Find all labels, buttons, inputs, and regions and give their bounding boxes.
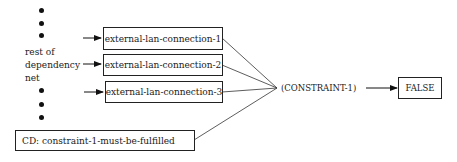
node-external-lan-connection-1: external-lan-connection-1 bbox=[103, 27, 223, 50]
line-conn-2-to-constraint bbox=[222, 65, 277, 88]
ellipsis-dot bbox=[39, 88, 44, 93]
source-label-line-2: dependency bbox=[25, 59, 80, 72]
node-external-lan-connection-2: external-lan-connection-2 bbox=[103, 54, 223, 76]
constraint-label: (CONSTRAINT-1) bbox=[281, 82, 356, 95]
line-conn-1-to-constraint bbox=[222, 38, 277, 88]
ellipsis-dot bbox=[39, 33, 44, 38]
cd-constraint-box: CD: constraint-1-must-be-fulfilled bbox=[15, 130, 195, 151]
ellipsis-dot bbox=[39, 102, 44, 107]
ellipsis-dot bbox=[39, 8, 44, 13]
line-conn-3-to-constraint bbox=[222, 88, 277, 92]
result-false-box: FALSE bbox=[398, 77, 442, 99]
source-label-line-1: rest of bbox=[25, 46, 54, 59]
ellipsis-dot bbox=[39, 21, 44, 26]
ellipsis-dot bbox=[39, 115, 44, 120]
node-external-lan-connection-3: external-lan-connection-3 bbox=[105, 81, 223, 103]
source-label-line-3: net bbox=[25, 72, 40, 85]
